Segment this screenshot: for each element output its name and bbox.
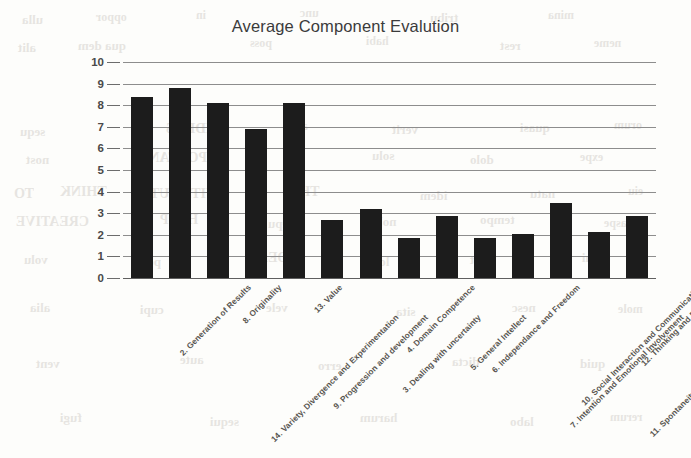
bar — [588, 232, 610, 278]
x-axis-label: 13. Value — [313, 283, 345, 315]
bar-cell — [351, 62, 389, 278]
y-axis-label-5: 5 — [80, 164, 104, 176]
bar-cell — [542, 62, 580, 278]
bar-cell — [618, 62, 656, 278]
y-axis-label-8: 8 — [80, 99, 104, 111]
x-axis-category-labels: 2. Generation of Results14. Variety, Div… — [123, 281, 656, 456]
bar-cell — [313, 62, 351, 278]
plot-area: 012345678910 — [123, 62, 656, 278]
bar — [512, 234, 534, 278]
bar-cell — [237, 62, 275, 278]
x-axis-label: 10. Social Interaction and Communication — [580, 283, 691, 407]
y-axis-label-7: 7 — [80, 121, 104, 133]
y-axis-label-9: 9 — [80, 78, 104, 90]
bar — [550, 203, 572, 278]
bar-cell — [123, 62, 161, 278]
chart-title: Average Component Evalution — [0, 17, 691, 36]
bar-series — [123, 62, 656, 278]
y-axis-tick-10 — [107, 62, 120, 63]
bar — [474, 238, 496, 278]
bar — [207, 103, 229, 278]
y-axis-label-0: 0 — [80, 272, 104, 284]
bar — [360, 209, 382, 278]
y-axis-label-3: 3 — [80, 207, 104, 219]
y-axis-tick-0 — [107, 278, 120, 279]
y-axis-tick-6 — [107, 148, 120, 149]
bar — [321, 220, 343, 278]
bar-cell — [504, 62, 542, 278]
y-axis-tick-5 — [107, 170, 120, 171]
bar-cell — [390, 62, 428, 278]
bar-cell — [428, 62, 466, 278]
bar-cell — [161, 62, 199, 278]
y-axis-tick-9 — [107, 84, 120, 85]
bar-cell — [580, 62, 618, 278]
y-axis-tick-3 — [107, 213, 120, 214]
bar — [436, 216, 458, 278]
y-axis-tick-2 — [107, 235, 120, 236]
y-axis-label-2: 2 — [80, 229, 104, 241]
bar-cell — [199, 62, 237, 278]
x-axis-label: 6. Independance and Freedom — [490, 283, 582, 375]
bar — [283, 103, 305, 278]
bar — [131, 97, 153, 278]
y-axis-tick-7 — [107, 127, 120, 128]
y-axis-label-4: 4 — [80, 186, 104, 198]
y-axis-tick-1 — [107, 256, 120, 257]
y-axis-label-6: 6 — [80, 142, 104, 154]
bar — [169, 88, 191, 278]
bar-cell — [466, 62, 504, 278]
bar — [626, 216, 648, 278]
y-axis-tick-8 — [107, 105, 120, 106]
bar — [398, 238, 420, 278]
y-axis-label-1: 1 — [80, 250, 104, 262]
gridline-0 — [123, 278, 656, 279]
bar — [245, 129, 267, 278]
y-axis-tick-4 — [107, 192, 120, 193]
y-axis-label-10: 10 — [80, 56, 104, 68]
bar-cell — [275, 62, 313, 278]
bar-chart: Average Component Evalution 012345678910… — [0, 0, 691, 458]
x-axis-label: 14. Variety, Divergence and Experimentat… — [270, 313, 401, 444]
